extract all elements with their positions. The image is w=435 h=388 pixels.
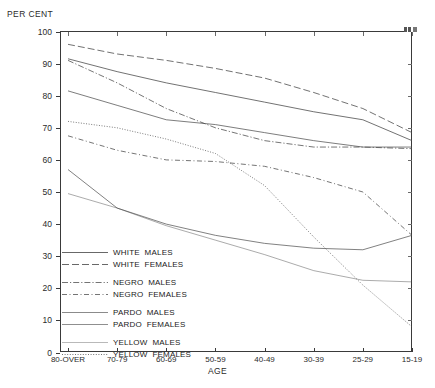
x-tick-mark-top (117, 32, 118, 36)
y-tick-label: 40 (22, 219, 52, 229)
y-tick-label: 70 (22, 123, 52, 133)
x-tick-mark (363, 348, 364, 352)
legend-item[interactable]: PARDO FEMALES (62, 319, 191, 331)
y-tick-label: 90 (22, 59, 52, 69)
y-tick-mark-right (408, 224, 412, 225)
y-tick-mark (56, 224, 60, 225)
x-tick-mark-top (363, 32, 364, 36)
legend-item[interactable]: PARDO MALES (62, 307, 191, 319)
legend-group-spacer (62, 330, 191, 337)
legend-line-sample (62, 307, 110, 318)
y-tick-label: 30 (22, 251, 52, 261)
y-tick-mark (56, 192, 60, 193)
legend-label: NEGRO MALES (110, 278, 176, 287)
legend-label: WHITE FEMALES (110, 260, 183, 269)
x-tick-mark-top (314, 32, 315, 36)
y-tick-label: 50 (22, 187, 52, 197)
y-tick-mark-right (408, 64, 412, 65)
x-tick-mark-top (215, 32, 216, 36)
legend-line-sample (62, 337, 110, 348)
legend-item[interactable]: WHITE MALES (62, 247, 191, 259)
y-tick-mark (56, 320, 60, 321)
legend-line-sample (62, 319, 110, 330)
chart-page: PER CENT 0102030405060708090100 80-OVER7… (0, 0, 435, 388)
x-tick-mark (265, 348, 266, 352)
legend-label: YELLOW MALES (110, 338, 181, 347)
x-tick-mark (215, 348, 216, 352)
y-tick-label: 80 (22, 91, 52, 101)
legend-item[interactable]: WHITE FEMALES (62, 259, 191, 271)
legend-item[interactable]: YELLOW FEMALES (62, 349, 191, 361)
y-tick-mark-right (408, 160, 412, 161)
legend-label: YELLOW FEMALES (110, 350, 191, 359)
y-tick-mark-right (408, 192, 412, 193)
y-tick-mark (56, 256, 60, 257)
legend-line-sample (62, 289, 110, 300)
y-tick-mark-right (408, 320, 412, 321)
legend-group-spacer (62, 300, 191, 307)
y-tick-label: 10 (22, 315, 52, 325)
y-tick-mark (56, 32, 60, 33)
y-tick-mark (56, 96, 60, 97)
legend-label: NEGRO FEMALES (110, 290, 187, 299)
legend-line-sample (62, 349, 110, 360)
chart-legend: WHITE MALESWHITE FEMALESNEGRO MALESNEGRO… (62, 247, 191, 360)
y-tick-label: 20 (22, 283, 52, 293)
legend-label: WHITE MALES (110, 248, 173, 257)
y-tick-mark (56, 128, 60, 129)
y-tick-mark-right (408, 256, 412, 257)
legend-group-spacer (62, 270, 191, 277)
y-tick-label: 100 (22, 27, 52, 37)
x-axis-title: AGE (0, 366, 435, 376)
legend-line-sample (62, 247, 110, 258)
y-tick-mark-right (408, 128, 412, 129)
y-tick-mark (56, 160, 60, 161)
x-tick-label: 15-19 (382, 355, 435, 364)
y-tick-mark (56, 288, 60, 289)
y-tick-mark-right (408, 96, 412, 97)
legend-label: PARDO FEMALES (110, 320, 185, 329)
x-tick-mark (412, 348, 413, 352)
y-tick-label: 60 (22, 155, 52, 165)
legend-line-sample (62, 277, 110, 288)
x-tick-mark-top (412, 32, 413, 36)
y-tick-mark (56, 353, 60, 354)
legend-item[interactable]: NEGRO FEMALES (62, 289, 191, 301)
x-tick-mark-top (265, 32, 266, 36)
legend-item[interactable]: YELLOW MALES (62, 337, 191, 349)
series-line (68, 170, 412, 250)
legend-item[interactable]: NEGRO MALES (62, 277, 191, 289)
y-tick-mark-right (408, 288, 412, 289)
series-line (68, 136, 412, 236)
y-tick-mark (56, 64, 60, 65)
x-tick-mark (314, 348, 315, 352)
x-tick-mark-top (166, 32, 167, 36)
legend-line-sample (62, 259, 110, 270)
x-tick-mark-top (68, 32, 69, 36)
legend-label: PARDO MALES (110, 308, 175, 317)
